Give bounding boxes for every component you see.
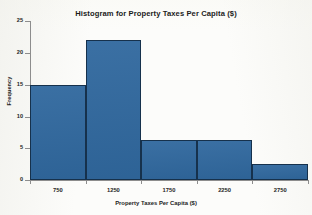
- bar-bin-1250: [86, 40, 142, 180]
- x-tick-1500: [141, 180, 142, 184]
- x-tick-label-750: 750: [30, 188, 86, 194]
- bar-bin-2250: [197, 140, 253, 180]
- x-tick-label-1750: 1750: [141, 188, 197, 194]
- bar-bin-750: [30, 85, 86, 180]
- bars-layer: [30, 21, 308, 180]
- chart-title: Histogram for Property Taxes Per Capita …: [0, 9, 312, 18]
- y-tick-label-5: 5: [6, 145, 23, 151]
- x-axis-title: Property Taxes Per Capita ($): [0, 200, 312, 206]
- bar-bin-1750: [141, 140, 197, 180]
- x-axis-line: [30, 180, 308, 181]
- x-tick-2500: [252, 180, 253, 184]
- y-tick-label-25: 25: [6, 18, 23, 24]
- y-tick-label-0: 0: [6, 177, 23, 183]
- x-tick-label-2250: 2250: [197, 188, 253, 194]
- x-tick-label-2750: 2750: [252, 188, 308, 194]
- x-tick-3000: [308, 180, 309, 184]
- x-tick-2000: [197, 180, 198, 184]
- x-tick-label-1250: 1250: [85, 188, 141, 194]
- y-axis-title: Frequency: [6, 63, 12, 119]
- x-tick-1000: [86, 180, 87, 184]
- x-tick-500: [30, 180, 31, 184]
- histogram-figure: Histogram for Property Taxes Per Capita …: [0, 0, 312, 215]
- bar-bin-2750: [252, 164, 308, 180]
- y-tick-label-20: 20: [6, 50, 23, 56]
